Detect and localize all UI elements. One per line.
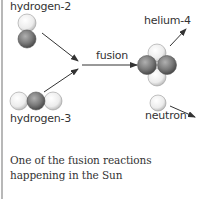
fusion-label: fusion bbox=[96, 50, 128, 62]
hydrogen-3-label: hydrogen-3 bbox=[10, 113, 71, 125]
neutron-particle-icon bbox=[18, 30, 36, 48]
fusion-diagram-figure: hydrogen-2 hydrogen-3 fusion helium-4 ne… bbox=[0, 0, 202, 199]
helium-4-label: helium-4 bbox=[144, 15, 191, 27]
proton-icon bbox=[27, 92, 45, 110]
neutron-particle-icon bbox=[44, 92, 62, 110]
hydrogen-3-nucleus bbox=[10, 92, 62, 110]
neutron-label: neutron bbox=[145, 110, 187, 122]
hydrogen-2-label: hydrogen-2 bbox=[10, 1, 71, 13]
hydrogen-2-nucleus bbox=[18, 14, 36, 48]
hydrogen-2-arrow bbox=[42, 33, 78, 61]
helium-4-nucleus bbox=[138, 44, 177, 86]
figure-caption: One of the fusion reactions happening in… bbox=[10, 153, 196, 183]
proton-icon bbox=[18, 14, 36, 32]
neutron-particle-icon bbox=[138, 56, 157, 75]
hydrogen-3-arrow bbox=[44, 69, 78, 92]
helium-4-arrow bbox=[170, 29, 186, 46]
neutron-particle-icon bbox=[158, 56, 177, 75]
neutron-particle-icon bbox=[10, 92, 28, 110]
